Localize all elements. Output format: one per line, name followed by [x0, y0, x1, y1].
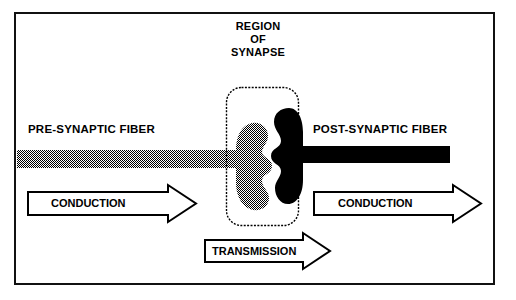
postsynaptic-terminal — [271, 108, 305, 204]
presynaptic-fiber-label: PRE-SYNAPTIC FIBER — [28, 123, 155, 135]
conduction-right-label: CONDUCTION — [338, 197, 413, 209]
conduction-left-label: CONDUCTION — [51, 197, 126, 209]
postsynaptic-fiber-shaft — [300, 146, 450, 163]
region-of-synapse-title: REGION OF SYNAPSE — [0, 20, 516, 59]
region-title-line-1: REGION — [0, 20, 516, 33]
transmission-label: TRANSMISSION — [212, 245, 296, 257]
region-title-line-2: OF — [0, 33, 516, 46]
presynaptic-fiber-shaft — [17, 150, 235, 168]
presynaptic-terminal — [228, 123, 272, 210]
region-title-line-3: SYNAPSE — [0, 46, 516, 59]
synapse-diagram: REGION OF SYNAPSE PRE-SYNAPTIC FIBER POS… — [0, 0, 516, 300]
postsynaptic-fiber-label: POST-SYNAPTIC FIBER — [313, 123, 447, 135]
